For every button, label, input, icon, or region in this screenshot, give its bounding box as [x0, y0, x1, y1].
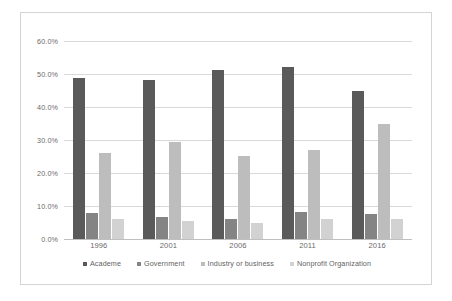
bar[interactable] [321, 219, 333, 239]
bar[interactable] [295, 212, 307, 239]
bar[interactable] [308, 150, 320, 239]
y-axis-tick-label: 10.0% [37, 202, 58, 211]
x-axis-tick-label: 1996 [64, 241, 134, 250]
bar[interactable] [156, 217, 168, 239]
bar[interactable] [225, 219, 237, 239]
y-axis-tick-label: 40.0% [37, 102, 58, 111]
bar-group [203, 41, 273, 239]
x-axis-tick-label: 2006 [203, 241, 273, 250]
bar[interactable] [99, 153, 111, 239]
bar[interactable] [391, 219, 403, 239]
y-axis-tick-label: 50.0% [37, 69, 58, 78]
bar-group [134, 41, 204, 239]
bar[interactable] [73, 78, 85, 239]
bar[interactable] [352, 91, 364, 239]
category-axis: 19962001200620112016 [64, 241, 412, 250]
bar-groups [64, 41, 412, 239]
legend-item[interactable]: Academe [83, 259, 121, 268]
bar[interactable] [86, 213, 98, 239]
bar[interactable] [365, 214, 377, 239]
x-axis-tick-label: 2016 [342, 241, 412, 250]
legend-swatch-icon [137, 262, 141, 266]
chart-frame: 0.0%10.0%20.0%30.0%40.0%50.0%60.0% 19962… [20, 12, 432, 285]
bar[interactable] [212, 70, 224, 239]
bar[interactable] [378, 124, 390, 239]
bar[interactable] [238, 156, 250, 239]
bar[interactable] [251, 223, 263, 239]
bar[interactable] [143, 80, 155, 239]
bar[interactable] [169, 142, 181, 239]
plot-area: 0.0%10.0%20.0%30.0%40.0%50.0%60.0% [64, 41, 412, 239]
bar[interactable] [112, 219, 124, 239]
x-axis-tick-label: 2011 [273, 241, 343, 250]
y-axis-tick-label: 0.0% [41, 235, 58, 244]
legend-label: Nonprofit Organization [297, 259, 371, 268]
x-axis-tick-label: 2001 [134, 241, 204, 250]
legend-swatch-icon [201, 262, 205, 266]
bar[interactable] [282, 67, 294, 239]
y-axis-tick-label: 20.0% [37, 168, 58, 177]
legend-swatch-icon [83, 262, 87, 266]
y-axis-tick-label: 30.0% [37, 136, 58, 145]
legend-label: Academe [90, 259, 121, 268]
legend-label: Government [144, 259, 185, 268]
legend-item[interactable]: Government [137, 259, 185, 268]
y-axis-tick-label: 60.0% [37, 37, 58, 46]
bar-group [273, 41, 343, 239]
gridline: 0.0% [64, 239, 412, 240]
legend-item[interactable]: Industry or business [201, 259, 274, 268]
bar-group [64, 41, 134, 239]
chart-legend: AcademeGovernmentIndustry or businessNon… [21, 259, 433, 268]
legend-label: Industry or business [208, 259, 274, 268]
legend-item[interactable]: Nonprofit Organization [290, 259, 371, 268]
legend-swatch-icon [290, 262, 294, 266]
bar-group [342, 41, 412, 239]
bar[interactable] [182, 221, 194, 239]
